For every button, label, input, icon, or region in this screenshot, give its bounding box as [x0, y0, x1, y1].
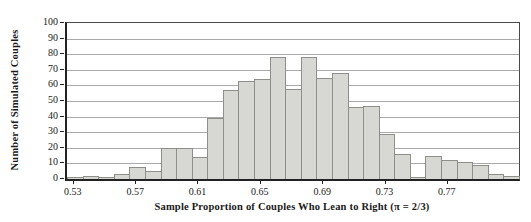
histogram-bar — [176, 148, 193, 179]
histogram-bar — [410, 177, 427, 179]
histogram-bar — [472, 165, 489, 179]
x-tick-label: 0.69 — [304, 186, 340, 198]
y-tick-label: 10 — [28, 156, 58, 168]
histogram-bar — [223, 90, 240, 179]
histogram-bar — [457, 162, 474, 179]
y-tick-mark — [60, 38, 64, 39]
y-tick-mark — [60, 84, 64, 85]
y-tick-mark — [60, 178, 64, 179]
y-tick-label: 100 — [28, 16, 58, 28]
histogram-bar — [503, 176, 520, 179]
x-tick-label: 0.61 — [179, 186, 215, 198]
histogram-bar — [270, 57, 287, 179]
y-tick-mark — [60, 116, 64, 117]
histogram-bar — [363, 106, 380, 179]
y-tick-mark — [60, 69, 64, 70]
y-tick-mark — [60, 100, 64, 101]
x-tick-mark — [322, 180, 323, 184]
histogram-bar — [192, 157, 209, 179]
x-tick-mark — [73, 180, 74, 184]
y-tick-label: 20 — [28, 141, 58, 153]
x-tick-mark — [260, 180, 261, 184]
histogram-bar — [98, 177, 115, 179]
histogram-bar — [301, 57, 318, 179]
y-tick-label: 60 — [28, 78, 58, 90]
y-tick-label: 50 — [28, 94, 58, 106]
histogram-bar — [254, 79, 271, 179]
y-tick-mark — [60, 53, 64, 54]
y-tick-label: 70 — [28, 63, 58, 75]
histogram-bar — [145, 171, 162, 179]
x-tick-label: 0.57 — [117, 186, 153, 198]
x-tick-mark — [447, 180, 448, 184]
y-tick-mark — [60, 22, 64, 23]
histogram-bar — [129, 167, 146, 179]
y-tick-label: 40 — [28, 110, 58, 122]
x-tick-label: 0.53 — [55, 186, 91, 198]
histogram-bar — [394, 154, 411, 179]
y-axis-title: Number of Simulated Couples — [9, 30, 20, 171]
y-tick-label: 90 — [28, 32, 58, 44]
y-tick-mark — [60, 147, 64, 148]
histogram-bar — [488, 174, 505, 179]
y-tick-label: 0 — [28, 172, 58, 184]
x-tick-label: 0.65 — [242, 186, 278, 198]
histogram-figure: Number of Simulated Couples 010203040506… — [0, 0, 531, 222]
histogram-bar — [114, 174, 131, 179]
x-tick-mark — [385, 180, 386, 184]
y-tick-mark — [60, 131, 64, 132]
x-tick-mark — [197, 180, 198, 184]
histogram-bar — [348, 107, 365, 179]
histogram-bar — [161, 148, 178, 179]
y-tick-label: 30 — [28, 125, 58, 137]
x-tick-label: 0.77 — [429, 186, 465, 198]
y-tick-label: 80 — [28, 47, 58, 59]
histogram-bar — [332, 73, 349, 179]
histogram-bar — [238, 81, 255, 179]
histogram-bar — [316, 78, 333, 179]
gridline — [67, 39, 519, 40]
histogram-bar — [83, 176, 100, 179]
histogram-bar — [441, 160, 458, 179]
histogram-bar — [67, 177, 84, 179]
gridline — [67, 70, 519, 71]
histogram-bar — [425, 156, 442, 179]
x-tick-label: 0.73 — [367, 186, 403, 198]
histogram-bar — [379, 134, 396, 179]
gridline — [67, 85, 519, 86]
y-tick-mark — [60, 162, 64, 163]
histogram-bar — [207, 118, 224, 179]
x-axis-title: Sample Proportion of Couples Who Lean to… — [154, 201, 429, 212]
histogram-bar — [285, 89, 302, 179]
plot-area — [65, 22, 520, 181]
gridline — [67, 54, 519, 55]
x-tick-mark — [135, 180, 136, 184]
